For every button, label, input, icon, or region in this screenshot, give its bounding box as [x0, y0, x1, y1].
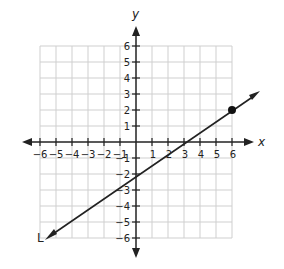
y-axis-label: y [131, 7, 140, 21]
y-tick-label: 6 [124, 41, 130, 52]
x-tick-label: 4 [198, 149, 204, 160]
x-axis-label: x [257, 135, 266, 149]
x-tick-label: 3 [182, 149, 188, 160]
x-tick-label: −4 [65, 149, 80, 160]
y-tick-label: 3 [124, 89, 130, 100]
x-tick-label: 1 [150, 149, 156, 160]
x-axis-left-arrow-icon [22, 138, 32, 146]
y-tick-label: 5 [124, 57, 130, 68]
x-tick-label: −6 [33, 149, 48, 160]
y-tick-label: −1 [115, 153, 130, 164]
y-tick-label: 4 [124, 73, 130, 84]
x-axis-right-arrow-icon [244, 138, 254, 146]
y-tick-label: −4 [115, 201, 130, 212]
y-tick-label: 2 [124, 105, 130, 116]
y-tick-label: −6 [115, 233, 130, 244]
y-tick-label: −2 [115, 169, 130, 180]
x-tick-label: −2 [97, 149, 112, 160]
x-tick-label: 5 [214, 149, 220, 160]
x-tick-label: 6 [230, 149, 236, 160]
y-tick-label: 1 [124, 121, 130, 132]
coordinate-plane: −6 −5 −4 −3 −2 −1 1 2 3 4 5 6 6 5 4 3 2 … [0, 0, 284, 269]
y-axis-down-arrow-icon [132, 248, 140, 258]
y-tick-label: −5 [115, 217, 130, 228]
line-label: L [37, 231, 44, 245]
x-tick-label: −5 [49, 149, 64, 160]
y-axis-up-arrow-icon [132, 26, 140, 36]
point-6-2 [228, 106, 236, 114]
x-tick-label: −3 [81, 149, 96, 160]
